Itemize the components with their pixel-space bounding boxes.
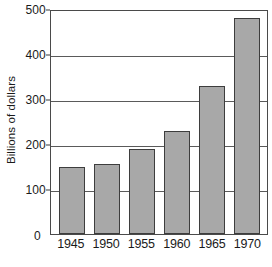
x-axis-tick-label: 1970	[230, 237, 264, 259]
x-axis-tick-labels: 194519501955196019651970	[50, 237, 268, 259]
x-axis-tick-label: 1965	[195, 237, 229, 259]
x-axis-tick-label: 1950	[89, 237, 123, 259]
bar	[59, 167, 85, 235]
y-axis-tick-label: 200	[25, 138, 46, 152]
y-axis-title: Billions of dollars	[0, 0, 22, 240]
x-axis-tick-label: 1945	[54, 237, 88, 259]
y-axis-tick-label: 500	[25, 3, 46, 17]
bar	[94, 164, 120, 234]
y-axis-tick-labels: 100200300400500	[20, 10, 50, 235]
x-axis-tick-label: 1960	[160, 237, 194, 259]
bar	[199, 86, 225, 235]
plot-area	[50, 10, 268, 235]
y-axis-tick-label: 300	[25, 93, 46, 107]
bar	[164, 131, 190, 234]
y-axis-zero-label: 0	[34, 229, 41, 243]
y-axis-tick-label: 400	[25, 48, 46, 62]
bar-chart-figure: Billions of dollars 100200300400500 0 19…	[0, 0, 272, 267]
bar-series	[51, 11, 267, 234]
x-axis-tick-label: 1955	[124, 237, 158, 259]
y-axis-title-text: Billions of dollars	[5, 76, 17, 164]
bar	[234, 18, 260, 234]
bar	[129, 149, 155, 235]
y-axis-tick-label: 100	[25, 183, 46, 197]
